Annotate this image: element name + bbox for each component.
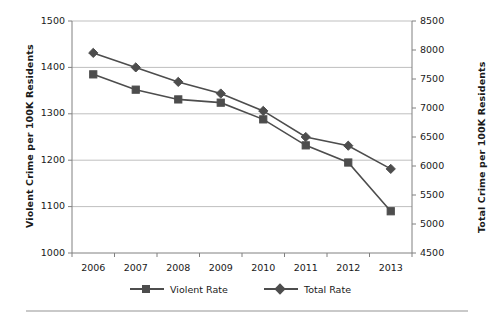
gridlines: [72, 21, 412, 207]
data-point-violent-rate: [260, 116, 267, 123]
data-point-total-rate: [344, 141, 353, 150]
x-tick-label: 2011: [286, 262, 326, 273]
data-point-violent-rate: [132, 86, 139, 93]
left-tick-label: 1300: [31, 107, 65, 118]
x-tick-label: 2006: [73, 262, 113, 273]
data-point-total-rate: [216, 89, 225, 98]
right-tick-label: 6500: [420, 131, 456, 142]
x-tick-label: 2009: [201, 262, 241, 273]
right-tick-label: 4500: [420, 247, 456, 258]
data-point-total-rate: [301, 132, 310, 141]
right-tick-label: 8500: [420, 15, 456, 26]
data-point-violent-rate: [345, 159, 352, 166]
data-point-violent-rate: [175, 96, 182, 103]
left-tick-label: 1000: [31, 247, 65, 258]
right-tick-label: 7000: [420, 102, 456, 113]
legend-swatch: [130, 283, 164, 295]
data-point-violent-rate: [217, 99, 224, 106]
data-series-layer: [89, 48, 396, 215]
data-point-total-rate: [386, 164, 395, 173]
x-tick-label: 2007: [116, 262, 156, 273]
legend-marker-diamond-icon: [274, 283, 285, 294]
right-tick-label: 5000: [420, 218, 456, 229]
axis-lines: [72, 21, 412, 253]
left-tick-label: 1400: [31, 61, 65, 72]
legend-swatch: [264, 283, 298, 295]
legend-marker-square-icon: [142, 285, 150, 293]
right-tick-label: 6000: [420, 160, 456, 171]
x-tick-label: 2010: [243, 262, 283, 273]
left-tick-label: 1200: [31, 154, 65, 165]
legend-item-label: Violent Rate: [170, 284, 228, 295]
axis-tick-marks: [68, 21, 416, 257]
data-point-total-rate: [89, 48, 98, 57]
chart-figure: Violent Crime per 100K Residents Total C…: [0, 0, 492, 321]
data-point-total-rate: [131, 63, 140, 72]
data-point-violent-rate: [302, 142, 309, 149]
data-point-violent-rate: [90, 71, 97, 78]
data-point-violent-rate: [387, 208, 394, 215]
bottom-divider: [26, 310, 468, 312]
right-tick-label: 8000: [420, 44, 456, 55]
left-tick-label: 1500: [31, 15, 65, 26]
right-tick-label: 5500: [420, 189, 456, 200]
x-tick-label: 2013: [371, 262, 411, 273]
legend-item-label: Total Rate: [304, 284, 351, 295]
x-tick-label: 2008: [158, 262, 198, 273]
x-tick-label: 2012: [328, 262, 368, 273]
left-tick-label: 1100: [31, 200, 65, 211]
legend-item-violent-rate[interactable]: Violent Rate: [130, 283, 228, 295]
legend-item-total-rate[interactable]: Total Rate: [264, 283, 351, 295]
data-point-total-rate: [174, 77, 183, 86]
right-tick-label: 7500: [420, 73, 456, 84]
